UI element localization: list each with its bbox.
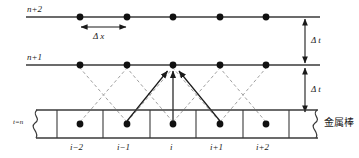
- solid-stencil-arrows: [127, 71, 220, 121]
- metal-rod-label: 金属棒: [324, 118, 354, 128]
- time-level-line-n1: [26, 62, 320, 69]
- stencil-diagram-figure: n+2 n+1 Δ x Δ t Δ t t=n 金属棒 i−2 i−1 i i+…: [0, 0, 359, 158]
- rod-break-right: [313, 110, 317, 138]
- space-index-label-ip1: i+1: [210, 143, 223, 152]
- delta-t-label-upper: Δ t: [311, 36, 321, 45]
- time-level-label-n2: n+2: [27, 5, 42, 14]
- diagram-canvas: [0, 0, 359, 158]
- rod-nodes: [77, 121, 270, 128]
- rod-break-left: [33, 110, 37, 138]
- space-index-label-ip2: i+2: [256, 143, 269, 152]
- delta-t-label-lower: Δ t: [311, 85, 321, 94]
- time-level-line-n2: [26, 14, 320, 21]
- space-index-label-im1: i−1: [117, 143, 130, 152]
- space-index-label-im2: i−2: [70, 143, 83, 152]
- space-index-label-i: i: [170, 143, 173, 152]
- metal-rod: [33, 110, 318, 138]
- delta-x-label: Δ x: [93, 32, 104, 41]
- time-zero-label: t=n: [13, 119, 23, 126]
- time-level-label-n1: n+1: [27, 53, 42, 62]
